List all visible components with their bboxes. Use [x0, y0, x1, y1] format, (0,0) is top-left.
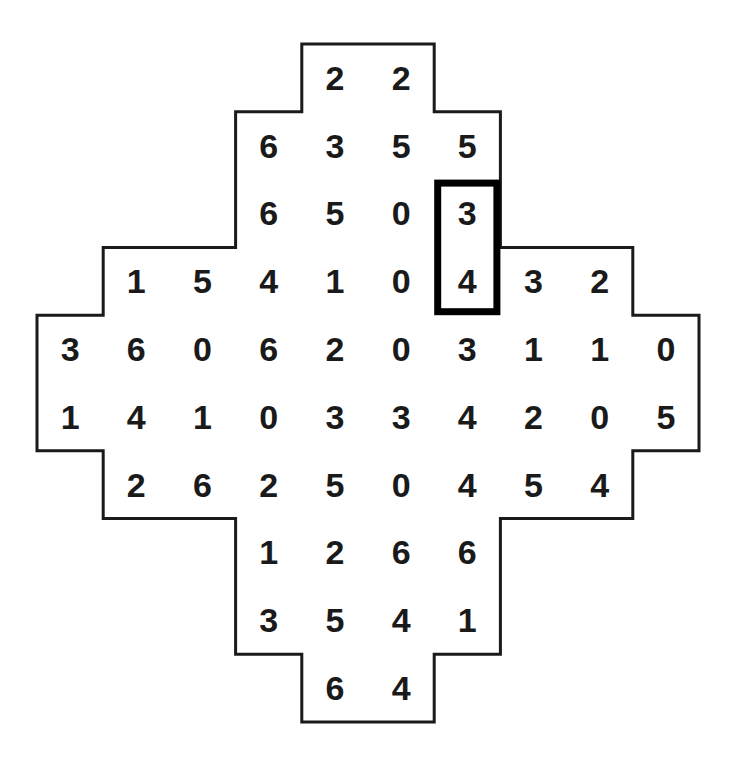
grid-cell-r4-c8[interactable]: 3 — [500, 247, 566, 315]
grid-cell-r6-c2[interactable]: 4 — [103, 383, 169, 451]
grid-cell-r5-c7[interactable]: 3 — [434, 315, 500, 383]
grid-cell-r8-c5[interactable]: 2 — [302, 519, 368, 587]
grid-cell-r7-c6[interactable]: 0 — [368, 451, 434, 519]
grid-cell-r6-c10[interactable]: 5 — [633, 383, 699, 451]
grid-cell-r7-c3[interactable]: 6 — [169, 451, 235, 519]
grid-cell-r7-c2[interactable]: 2 — [103, 451, 169, 519]
grid-cell-r1-c6[interactable]: 2 — [368, 44, 434, 112]
grid-cell-r4-c3[interactable]: 5 — [169, 247, 235, 315]
grid-cell-r4-c5[interactable]: 1 — [302, 247, 368, 315]
grid-cell-r5-c3[interactable]: 0 — [169, 315, 235, 383]
grid-cell-r9-c7[interactable]: 1 — [434, 586, 500, 654]
grid-cell-r3-c4[interactable]: 6 — [236, 180, 302, 248]
grid-cell-r2-c5[interactable]: 3 — [302, 112, 368, 180]
grid-cell-r4-c2[interactable]: 1 — [103, 247, 169, 315]
grid-cell-r1-c5[interactable]: 2 — [302, 44, 368, 112]
grid-cell-r8-c4[interactable]: 1 — [236, 519, 302, 587]
grid-cell-r6-c1[interactable]: 1 — [37, 383, 103, 451]
grid-cell-r6-c8[interactable]: 2 — [500, 383, 566, 451]
grid-cell-r9-c4[interactable]: 3 — [236, 586, 302, 654]
grid-cell-r2-c6[interactable]: 5 — [368, 112, 434, 180]
grid-cell-r5-c10[interactable]: 0 — [633, 315, 699, 383]
grid-cell-r5-c5[interactable]: 2 — [302, 315, 368, 383]
grid-cell-r5-c1[interactable]: 3 — [37, 315, 103, 383]
grid-cell-r9-c6[interactable]: 4 — [368, 586, 434, 654]
grid-cell-r6-c6[interactable]: 3 — [368, 383, 434, 451]
grid-cell-layer: 2263556503154104323606203110141033420526… — [0, 0, 737, 767]
grid-cell-r5-c9[interactable]: 1 — [567, 315, 633, 383]
grid-cell-r8-c6[interactable]: 6 — [368, 519, 434, 587]
grid-cell-r9-c5[interactable]: 5 — [302, 586, 368, 654]
grid-cell-r4-c6[interactable]: 0 — [368, 247, 434, 315]
grid-cell-r4-c4[interactable]: 4 — [236, 247, 302, 315]
grid-cell-r7-c7[interactable]: 4 — [434, 451, 500, 519]
grid-cell-r2-c7[interactable]: 5 — [434, 112, 500, 180]
grid-cell-r10-c6[interactable]: 4 — [368, 654, 434, 722]
grid-cell-r5-c6[interactable]: 0 — [368, 315, 434, 383]
grid-cell-r3-c7[interactable]: 3 — [434, 180, 500, 248]
grid-cell-r6-c7[interactable]: 4 — [434, 383, 500, 451]
grid-cell-r6-c5[interactable]: 3 — [302, 383, 368, 451]
grid-cell-r10-c5[interactable]: 6 — [302, 654, 368, 722]
grid-cell-r7-c5[interactable]: 5 — [302, 451, 368, 519]
grid-cell-r3-c5[interactable]: 5 — [302, 180, 368, 248]
grid-cell-r6-c3[interactable]: 1 — [169, 383, 235, 451]
grid-cell-r5-c8[interactable]: 1 — [500, 315, 566, 383]
number-grid-figure: 2263556503154104323606203110141033420526… — [0, 0, 737, 767]
grid-cell-r7-c8[interactable]: 5 — [500, 451, 566, 519]
grid-cell-r7-c9[interactable]: 4 — [567, 451, 633, 519]
grid-cell-r2-c4[interactable]: 6 — [236, 112, 302, 180]
grid-cell-r6-c4[interactable]: 0 — [236, 383, 302, 451]
grid-cell-r4-c7[interactable]: 4 — [434, 247, 500, 315]
grid-cell-r5-c4[interactable]: 6 — [236, 315, 302, 383]
grid-cell-r4-c9[interactable]: 2 — [567, 247, 633, 315]
grid-cell-r7-c4[interactable]: 2 — [236, 451, 302, 519]
grid-cell-r5-c2[interactable]: 6 — [103, 315, 169, 383]
grid-cell-r8-c7[interactable]: 6 — [434, 519, 500, 587]
grid-cell-r6-c9[interactable]: 0 — [567, 383, 633, 451]
grid-cell-r3-c6[interactable]: 0 — [368, 180, 434, 248]
